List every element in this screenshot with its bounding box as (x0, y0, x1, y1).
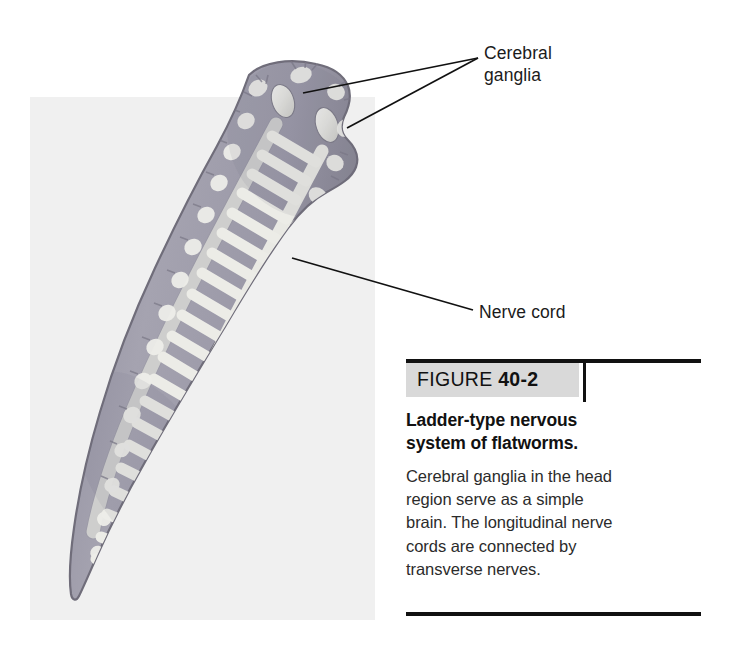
figure-word: FIGURE (417, 368, 498, 390)
caption-bottom-rule (406, 612, 701, 616)
caption-header: FIGURE 40-2 (406, 363, 701, 397)
figure-background-panel (30, 97, 375, 620)
leader-line-ganglion-left (303, 58, 478, 93)
figure-number: 40-2 (498, 368, 538, 390)
figure-caption-box: FIGURE 40-2 Ladder-type nervous system o… (406, 359, 701, 582)
label-cerebral-ganglia: Cerebral ganglia (484, 42, 552, 87)
caption-header-tick (583, 363, 586, 402)
figure-number-label: FIGURE 40-2 (417, 368, 538, 391)
caption-title: Ladder-type nervous system of flatworms. (406, 409, 701, 455)
caption-body-text: Cerebral ganglia in the head region serv… (406, 465, 701, 582)
label-nerve-cord: Nerve cord (479, 301, 566, 323)
